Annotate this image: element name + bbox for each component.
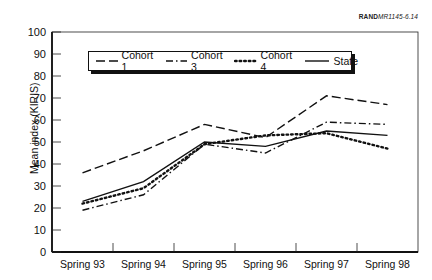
y-tick-label: 30 (34, 180, 46, 192)
x-tick-label: Spring 97 (304, 258, 349, 270)
line-chart: 0102030405060708090100Spring 93Spring 94… (0, 0, 432, 280)
legend-item-cohort-1: Cohort 1 (95, 49, 157, 73)
x-tick-label: Spring 93 (60, 258, 105, 270)
legend-swatch-icon (165, 57, 188, 65)
y-tick-label: 10 (34, 224, 46, 236)
y-axis-label: Mean index (KIRIS) (28, 94, 40, 174)
legend-swatch-icon (304, 57, 330, 65)
legend-label: State (334, 55, 359, 67)
legend-item-cohort-4: Cohort 4 (234, 49, 296, 73)
x-tick-label: Spring 94 (121, 258, 166, 270)
data-lines (83, 96, 388, 210)
x-tick-label: Spring 98 (365, 258, 410, 270)
x-tick-label: Spring 96 (243, 258, 288, 270)
legend-item-state: State (304, 55, 359, 67)
legend-label: Cohort 3 (191, 49, 226, 73)
series-line-cohort-1 (83, 96, 388, 173)
x-tick-label: Spring 95 (182, 258, 227, 270)
legend-swatch-icon (234, 57, 257, 65)
legend-label: Cohort 1 (122, 49, 157, 73)
y-tick-label: 80 (34, 70, 46, 82)
y-tick-label: 100 (28, 26, 46, 38)
legend-label: Cohort 4 (261, 49, 296, 73)
series-line-cohort-3 (83, 122, 388, 210)
legend-swatch-icon (95, 57, 118, 65)
y-tick-label: 0 (40, 246, 46, 258)
y-tick-label: 20 (34, 202, 46, 214)
legend-item-cohort-3: Cohort 3 (165, 49, 227, 73)
legend: Cohort 1Cohort 3Cohort 4State (88, 51, 352, 71)
y-tick-label: 90 (34, 48, 46, 60)
